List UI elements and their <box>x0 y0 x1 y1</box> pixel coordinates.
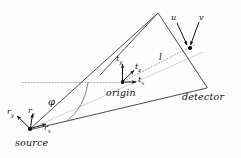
origin-axis-tz-sub: z <box>138 67 141 73</box>
detector-axis-v-text: v <box>199 13 204 22</box>
detector-plane-back-edge <box>100 13 158 75</box>
detector-axis-v-arrow <box>191 22 200 45</box>
source-axis-rx-label: rx <box>44 124 51 134</box>
distance-l-label: l <box>159 53 162 62</box>
detector-axis-u-label: u <box>171 14 176 22</box>
detector-axis-v-label: v <box>199 14 204 22</box>
source-point <box>28 127 31 130</box>
source-axis-ry-sub: y <box>11 112 14 118</box>
origin-axis-ty-label: ty <box>116 55 122 65</box>
origin-axis-tz-arrow <box>123 71 135 82</box>
origin-axis-tx-label: tx <box>138 76 144 86</box>
detector-label: detector <box>182 92 224 102</box>
source-label: source <box>15 138 48 148</box>
origin-axis-tz-label: tz <box>135 63 141 73</box>
diagram-canvas <box>0 0 241 158</box>
phi-angle-arc <box>66 83 88 123</box>
source-axis-rz-label: rz <box>28 107 35 117</box>
geometry-diagram: source origin detector φ l u v tx ty tz … <box>0 0 241 158</box>
origin-point <box>121 80 124 83</box>
detector-axis-u-text: u <box>171 13 176 22</box>
source-axis-rz-sub: z <box>32 111 35 117</box>
detector-center-point <box>188 46 191 49</box>
phi-angle-label: φ <box>48 97 55 107</box>
detector-plane-edge <box>158 13 208 88</box>
source-axis-rx-sub: x <box>48 128 51 134</box>
origin-axis-ty-sub: y <box>119 59 122 65</box>
origin-label: origin <box>106 88 136 98</box>
detector-axis-u-arrow <box>177 23 187 45</box>
source-axis-ry-label: ry <box>7 108 14 118</box>
origin-axis-tx-sub: x <box>141 80 144 86</box>
